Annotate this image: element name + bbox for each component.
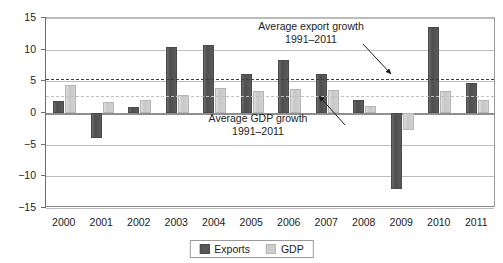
gdp-annotation: Average GDP growth 1991–2011 (178, 112, 338, 138)
chart-legend: ExportsGDP (189, 240, 313, 259)
y-tick-label: 5 (0, 75, 36, 86)
legend-label-gdp: GDP (281, 244, 304, 255)
bar-gdp-2011 (478, 100, 489, 113)
y-tick-label: 15 (0, 12, 36, 23)
bar-gdp-2010 (440, 91, 451, 113)
y-tick-label: −5 (0, 138, 36, 149)
x-tick-label-2007: 2007 (315, 217, 338, 228)
x-tick-label-2009: 2009 (390, 217, 413, 228)
bar-gdp-2002 (140, 100, 151, 113)
gdp-annotation-line2: 1991–2011 (178, 125, 338, 138)
y-tick-label: −15 (0, 202, 36, 213)
x-tick-label-2006: 2006 (277, 217, 300, 228)
gdp-swatch (266, 244, 276, 254)
gdp-annotation-line1: Average GDP growth (209, 112, 308, 124)
bar-gdp-2009 (403, 113, 414, 130)
legend-label-exports: Exports (214, 244, 250, 255)
legend-item-exports[interactable]: Exports (199, 244, 250, 255)
bar-gdp-2008 (365, 106, 376, 113)
x-tick-label-2008: 2008 (352, 217, 375, 228)
gridline (46, 176, 494, 177)
x-tick-label-2004: 2004 (202, 217, 225, 228)
bar-exports-2000 (53, 101, 64, 113)
export-annotation-line2: 1991–2011 (231, 33, 391, 46)
export-annotation-line1: Average export growth (258, 20, 363, 32)
x-tick-label-2005: 2005 (240, 217, 263, 228)
exports-swatch (199, 244, 209, 254)
bar-exports-2001 (91, 113, 102, 138)
x-tick-label-2001: 2001 (90, 217, 113, 228)
gridline (46, 18, 494, 19)
bar-gdp-2005 (253, 91, 264, 113)
bar-exports-2009 (391, 113, 402, 189)
gridline (46, 81, 494, 82)
bar-chart-figure: 151050−5−10−15 2000200120022003200420052… (0, 0, 503, 263)
bar-exports-2010 (428, 27, 439, 113)
bar-gdp-2006 (290, 89, 301, 113)
x-tick-label-2011: 2011 (465, 217, 488, 228)
bar-exports-2002 (128, 107, 139, 113)
bar-exports-2003 (166, 47, 177, 113)
legend-item-gdp[interactable]: GDP (266, 244, 304, 255)
gridline (46, 145, 494, 146)
y-tick-label: 0 (0, 107, 36, 118)
bar-exports-2008 (353, 100, 364, 113)
bar-gdp-2001 (103, 102, 114, 113)
y-tick-label: 10 (0, 43, 36, 54)
avg-export-growth-line (46, 79, 494, 80)
x-tick-label-2003: 2003 (165, 217, 188, 228)
avg-gdp-growth-line (46, 96, 494, 97)
x-tick-label-2010: 2010 (427, 217, 450, 228)
export-annotation: Average export growth 1991–2011 (231, 20, 391, 46)
gridline (46, 50, 494, 51)
bar-exports-2011 (466, 83, 477, 113)
x-tick-label-2002: 2002 (127, 217, 150, 228)
gridline (46, 208, 494, 209)
bar-gdp-2004 (215, 88, 226, 113)
bar-gdp-2000 (65, 85, 76, 113)
x-tick-label-2000: 2000 (52, 217, 75, 228)
bar-gdp-2007 (328, 90, 339, 113)
bar-gdp-2003 (178, 95, 189, 113)
y-tick-label: −10 (0, 170, 36, 181)
bar-exports-2006 (278, 60, 289, 113)
